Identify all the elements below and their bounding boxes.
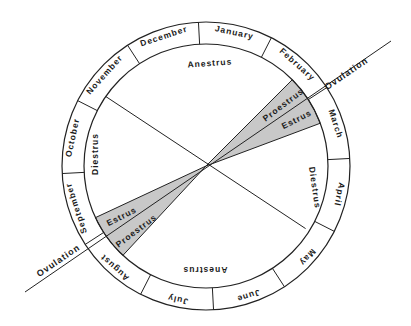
month-divider	[85, 232, 103, 244]
month-label-july: July	[166, 293, 189, 307]
month-divider	[308, 88, 326, 100]
month-label-november: November	[84, 53, 125, 97]
month-label-february: February	[278, 46, 318, 83]
month-divider	[78, 101, 98, 111]
phase-label-diestrus-right: Diestrus	[307, 166, 323, 209]
month-divider	[315, 221, 335, 231]
month-divider	[141, 275, 151, 295]
month-label-september: September	[63, 182, 89, 235]
month-label-march: March	[327, 108, 346, 140]
month-label-december: December	[139, 24, 189, 49]
month-label-august: August	[98, 252, 131, 283]
month-divider	[128, 45, 140, 63]
phase-label-diestrus-left: Diestrus	[90, 133, 100, 175]
phase-label-anestrus-bottom: Anestrus	[183, 265, 228, 275]
month-divider	[198, 22, 199, 44]
ovulation-label-upper: Ovulation	[323, 55, 370, 92]
ovulation-label-lower: Ovulation	[35, 242, 82, 279]
month-divider	[328, 158, 350, 159]
month-label-october: October	[63, 117, 81, 158]
estrous-cycle-diagram: JanuaryFebruaryMarchAprilMayJuneJulyAugu…	[0, 0, 411, 326]
month-label-may: May	[297, 247, 318, 268]
month-divider	[272, 268, 284, 286]
month-divider	[261, 38, 271, 58]
phase-label-anestrus-top: Anestrus	[187, 56, 232, 69]
month-label-january: January	[214, 23, 255, 41]
month-divider	[212, 288, 213, 310]
month-divider	[62, 172, 84, 173]
month-label-june: June	[235, 288, 261, 305]
